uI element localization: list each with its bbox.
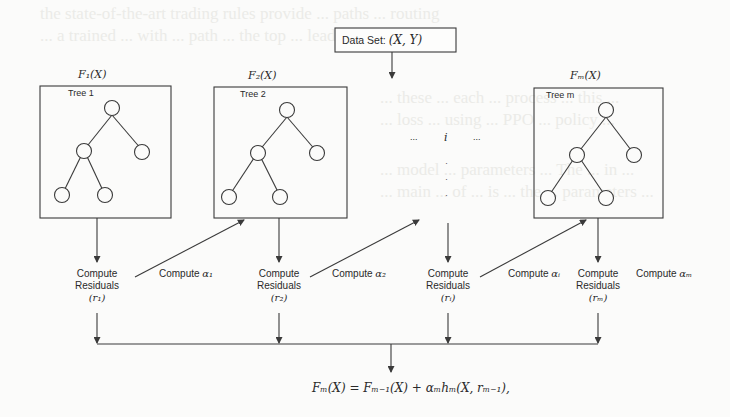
residuals-block-m: Compute Residuals (rₘ): [576, 268, 620, 304]
residuals-block-i: Compute Residuals (rᵢ): [426, 268, 470, 304]
alpha-i-label: Compute αᵢ: [508, 268, 560, 279]
alpha-m-label: Compute αₘ: [636, 268, 692, 279]
residuals-block-2: Compute Residuals (r₂): [257, 268, 301, 304]
residuals-1-line1: Compute: [75, 268, 119, 280]
tree-2-function: F₂(X): [248, 69, 276, 82]
tree-1-function: F₁(X): [78, 68, 106, 81]
tree-1-graph: [55, 101, 150, 203]
residuals-1-var: (r₁): [75, 292, 119, 304]
dataset-label-text: Data Set:: [342, 34, 386, 46]
alpha-1-text: Compute: [159, 268, 200, 279]
tree-1-label: Tree 1: [68, 88, 94, 98]
residuals-i-var: (rᵢ): [426, 292, 470, 304]
residuals-m-var: (rₘ): [576, 292, 620, 304]
ellipsis-left: ...: [410, 132, 418, 142]
diagram-canvas: [0, 0, 730, 417]
tree-m-graph: [541, 103, 642, 206]
tree-m-function: Fₘ(X): [570, 69, 601, 82]
residuals-i-line1: Compute: [426, 268, 470, 280]
alpha-i-var: αᵢ: [551, 268, 560, 279]
alpha-1-var: α₁: [202, 268, 213, 279]
residuals-i-line2: Residuals: [426, 280, 470, 292]
residuals-m-line2: Residuals: [576, 280, 620, 292]
dataset-math: (X, Y): [389, 33, 422, 47]
index-i: i: [444, 131, 448, 144]
tree-2-label: Tree 2: [240, 89, 266, 99]
dataset-label: Data Set: (X, Y): [342, 33, 422, 47]
alpha-m-text: Compute: [636, 268, 677, 279]
residuals-m-line1: Compute: [576, 268, 620, 280]
residuals-2-line2: Residuals: [257, 280, 301, 292]
residuals-2-line1: Compute: [257, 268, 301, 280]
alpha-2-var: α₂: [375, 268, 386, 279]
residuals-2-var: (r₂): [257, 292, 301, 304]
alpha-i-text: Compute: [508, 268, 549, 279]
alpha-2-text: Compute: [332, 268, 373, 279]
ellipsis-right: ...: [473, 132, 481, 142]
alpha-1-label: Compute α₁: [159, 268, 213, 279]
tree-2-graph: [222, 103, 325, 205]
residuals-block-1: Compute Residuals (r₁): [75, 268, 119, 304]
alpha-2-label: Compute α₂: [332, 268, 386, 279]
ellipsis-vertical: ···: [445, 155, 448, 203]
residuals-1-line2: Residuals: [75, 280, 119, 292]
alpha-m-var: αₘ: [679, 268, 692, 279]
update-formula: Fₘ(X) = Fₘ₋₁(X) + αₘhₘ(X, rₘ₋₁),: [312, 381, 510, 395]
tree-m-label: Tree m: [546, 90, 574, 100]
